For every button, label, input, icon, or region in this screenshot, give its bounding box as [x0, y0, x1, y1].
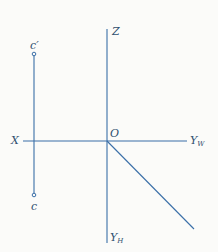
x-axis-label: X: [11, 135, 19, 146]
origin-label: O: [110, 128, 119, 139]
z-axis-label: Z: [112, 26, 120, 37]
diagonal-45-line: [107, 141, 194, 229]
point-c-label: c: [31, 201, 37, 212]
projection-diagram: [0, 0, 218, 252]
point-c-marker: [32, 193, 36, 197]
y-w-axis-label: YW: [190, 135, 204, 148]
y-h-axis-label: YH: [110, 232, 123, 245]
point-c-prime-marker: [32, 52, 36, 56]
point-c-prime-label: c′: [30, 40, 39, 51]
